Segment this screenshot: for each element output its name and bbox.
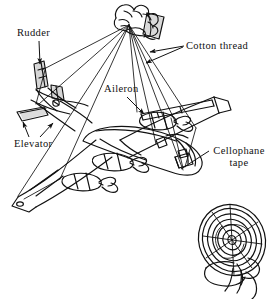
label-cellophane-tape-line1: Cellophane [213, 145, 264, 156]
electric-fan [187, 194, 269, 299]
elevator-arrow-1 [23, 122, 29, 137]
label-cellophane-tape-line2: tape [230, 157, 249, 168]
label-aileron: Aileron [104, 83, 139, 95]
label-rudder: Rudder [17, 27, 50, 39]
label-cotton-thread: Cotton thread [186, 40, 248, 52]
label-elevator: Elevator [14, 138, 52, 150]
label-cellophane-tape: Cellophane tape [211, 145, 267, 168]
figure-model-airplane-demo: Rudder Cotton thread Aileron Elevator Ce… [0, 0, 269, 299]
elevator-arrow-2 [40, 123, 53, 137]
rudder-arrow [39, 41, 40, 64]
